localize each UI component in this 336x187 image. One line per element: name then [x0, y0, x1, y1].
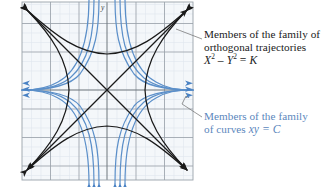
annotation-curves-line2: of curves xy = C — [204, 123, 308, 137]
annotation-curves-prefix: of curves — [204, 123, 249, 135]
figure-container: y x — [0, 0, 336, 187]
equation-equals-operator: = — [237, 54, 250, 67]
y-axis-label: y — [100, 3, 105, 12]
annotation-orthogonal-line1: Members of the family of — [204, 28, 320, 41]
equation-minus-operator: – — [215, 54, 227, 67]
equation-constant: K — [249, 54, 257, 67]
annotation-orthogonal-equation: X2 – Y2 = K — [204, 54, 320, 68]
annotation-curves-equation: xy = C — [249, 123, 281, 136]
annotation-orthogonal-line2: orthogonal trajectories — [204, 41, 320, 54]
annotation-curves-line1: Members of the family — [204, 110, 308, 123]
annotation-orthogonal-trajectories: Members of the family of orthogonal traj… — [204, 28, 320, 68]
annotation-family-of-curves: Members of the family of curves xy = C — [204, 110, 308, 137]
